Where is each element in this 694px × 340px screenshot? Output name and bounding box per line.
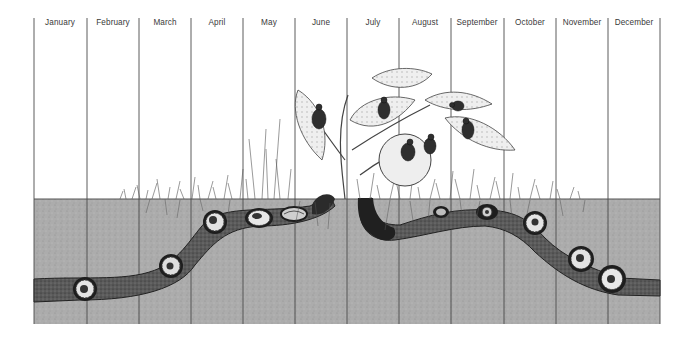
larva-august: [433, 206, 449, 218]
pupa-may: [280, 206, 308, 222]
month-label-september: September: [451, 18, 503, 27]
beetle-fruit-2: [424, 134, 436, 154]
month-label-april: April: [191, 18, 243, 27]
month-label-july: July: [347, 18, 399, 27]
illustration: [0, 0, 694, 340]
month-label-march: March: [139, 18, 191, 27]
month-label-june: June: [295, 18, 347, 27]
larva-january: [73, 277, 97, 301]
month-label-november: November: [556, 18, 608, 27]
larva-december: [598, 265, 626, 293]
larva-march: [159, 254, 183, 278]
larva-september: [476, 204, 498, 220]
beetle-sept-1: [450, 101, 465, 111]
larva-april: [203, 210, 227, 234]
month-header: January February March April May June Ju…: [34, 18, 660, 32]
grass: [120, 119, 580, 199]
month-label-october: October: [504, 18, 556, 27]
larva-november: [568, 246, 594, 272]
month-label-august: August: [399, 18, 451, 27]
life-cycle-diagram: January February March April May June Ju…: [0, 0, 694, 340]
month-label-january: January: [34, 18, 86, 27]
month-label-may: May: [243, 18, 295, 27]
larva-october: [523, 211, 547, 235]
month-label-february: February: [87, 18, 139, 27]
larva-april-may: [245, 208, 273, 228]
month-label-december: December: [608, 18, 660, 27]
